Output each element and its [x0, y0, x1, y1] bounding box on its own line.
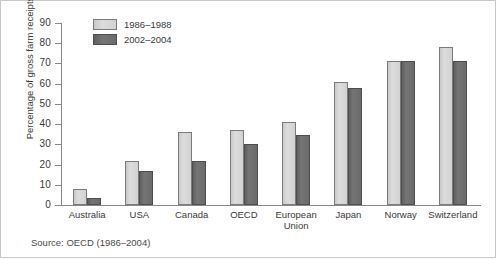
legend-label-1986-1988: 1986–1988 — [124, 19, 172, 30]
y-tick-label-40: 40 — [1, 119, 51, 129]
y-tick-label-60: 60 — [1, 79, 51, 89]
bar — [387, 61, 401, 205]
bar-group — [125, 23, 153, 205]
bar — [453, 61, 467, 205]
bar-group — [73, 23, 101, 205]
plot-area — [61, 23, 479, 205]
y-tick-label-80: 80 — [1, 38, 51, 48]
bar — [178, 132, 192, 205]
bar — [192, 161, 206, 205]
y-tick-label-30: 30 — [1, 139, 51, 149]
y-tick-label-90: 90 — [1, 18, 51, 28]
bar-group — [230, 23, 258, 205]
chart-figure: Percentage of gross farm receipts 010203… — [0, 0, 496, 258]
bar-group — [387, 23, 415, 205]
x-axis-line — [61, 205, 481, 206]
source-note: Source: OECD (1986–2004) — [31, 237, 150, 248]
bar — [139, 171, 153, 205]
y-tick-label-20: 20 — [1, 160, 51, 170]
legend-swatch-icon-2002-2004 — [93, 34, 117, 45]
bar — [73, 189, 87, 205]
bar — [348, 88, 362, 205]
y-tick-label-50: 50 — [1, 99, 51, 109]
bar — [401, 61, 415, 205]
bar — [282, 122, 296, 205]
legend-swatch-icon-1986-1988 — [93, 19, 117, 30]
bar — [125, 161, 139, 205]
legend-item-0: 1986–1988 — [93, 19, 172, 30]
y-tick-label-10: 10 — [1, 180, 51, 190]
bar-group — [178, 23, 206, 205]
legend-item-1: 2002–2004 — [93, 34, 172, 45]
bar — [439, 47, 453, 205]
bar — [334, 82, 348, 205]
bar-group — [439, 23, 467, 205]
legend-label-2002-2004: 2002–2004 — [124, 34, 172, 45]
bar — [244, 144, 258, 205]
chart-legend: 1986–1988 2002–2004 — [93, 19, 172, 49]
y-tick-label-70: 70 — [1, 58, 51, 68]
bar-group — [334, 23, 362, 205]
bar — [87, 198, 101, 205]
bar-group — [282, 23, 310, 205]
x-axis-label: Switzerland — [410, 209, 496, 220]
bar — [296, 135, 310, 205]
bar — [230, 130, 244, 205]
